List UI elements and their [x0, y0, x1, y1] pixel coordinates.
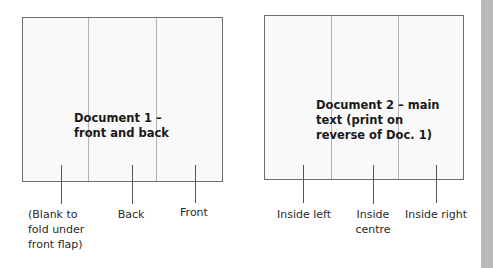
leader-inside-right: [436, 165, 437, 203]
label-line: fold under: [28, 222, 84, 237]
label-line: centre: [355, 222, 390, 237]
title-line: front and back: [74, 126, 169, 141]
title-line: reverse of Doc. 1): [316, 128, 440, 143]
fold-line-2: [156, 18, 157, 181]
label-line: Back: [118, 207, 145, 222]
label-line: (Blank to: [28, 207, 84, 222]
leader-inside-centre: [373, 165, 374, 204]
leader-back: [132, 165, 133, 204]
label-back: Back: [118, 207, 145, 222]
label-inside-centre: Inside centre: [355, 207, 390, 237]
leader-inside-left: [303, 165, 304, 203]
leader-front: [195, 165, 196, 203]
title-line: Document 1 –: [74, 111, 169, 126]
label-line: Inside left: [277, 207, 331, 222]
title-line: text (print on: [316, 113, 440, 128]
fold-line-1: [88, 18, 89, 181]
label-line: front flap): [28, 237, 84, 252]
title-line: Document 2 – main: [316, 98, 440, 113]
document-1-box: Document 1 – front and back: [22, 17, 223, 182]
document-1-title: Document 1 – front and back: [74, 111, 169, 141]
page-edge-strip: [481, 0, 493, 268]
label-line: Inside right: [405, 207, 467, 222]
label-blank-flap: (Blank to fold under front flap): [28, 207, 84, 252]
label-inside-left: Inside left: [277, 207, 331, 222]
document-2-box: Document 2 – main text (print on reverse…: [264, 15, 464, 180]
label-front: Front: [180, 205, 208, 220]
label-inside-right: Inside right: [405, 207, 467, 222]
leader-blank-flap: [61, 165, 62, 204]
label-line: Inside: [355, 207, 390, 222]
label-line: Front: [180, 205, 208, 220]
document-2-title: Document 2 – main text (print on reverse…: [316, 98, 440, 143]
